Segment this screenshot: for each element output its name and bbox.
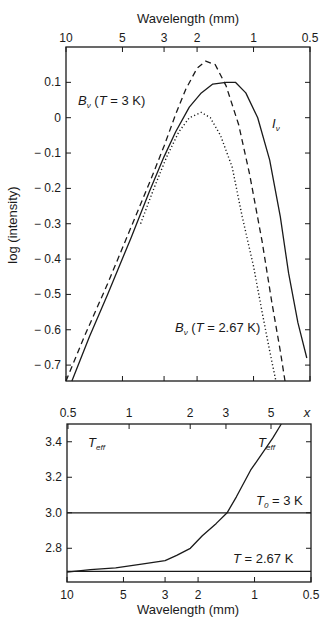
x2-tick-label: 1 <box>126 406 133 420</box>
x2-tick-label: 5 <box>268 406 275 420</box>
x-tick-label: 0.5 <box>303 588 320 602</box>
figure: Wavelength (mm) 1053210.5 0.10− 0.1− 0.2… <box>0 0 330 632</box>
upper-chart: Wavelength (mm) 1053210.5 0.10− 0.1− 0.2… <box>5 11 319 381</box>
x-tick-label: 5 <box>119 31 126 45</box>
y-tick-label: − 0.3 <box>34 217 61 231</box>
series-b-v-t-2-67-k <box>141 112 276 381</box>
y-tick-label: − 0.2 <box>34 181 61 195</box>
lower-bottom-x-ticks: 1053210.5 <box>60 577 319 602</box>
x-tick-label: 2 <box>194 31 201 45</box>
y-tick-label: 3.4 <box>45 435 62 449</box>
upper-x-axis-title: Wavelength (mm) <box>137 11 239 26</box>
lower-x2-axis-title: x <box>303 405 311 420</box>
y-tick-label: − 0.5 <box>34 287 61 301</box>
lower-chart: 0.51235 x 3.43.23.02.8 1053210.5 Wavelen… <box>45 405 319 617</box>
x-tick-label: 10 <box>60 588 74 602</box>
x2-tick-label: 0.5 <box>60 406 77 420</box>
x2-tick-label: 3 <box>223 406 230 420</box>
y-tick-label: − 0.1 <box>34 146 61 160</box>
annotation-t0-3k: T0 = 3 K <box>256 493 303 510</box>
annotation-bv-267k: Bν (T = 2.67 K) <box>175 320 260 337</box>
x-tick-label: 1 <box>251 588 258 602</box>
annotation-bv-3k: Bν (T = 3 K) <box>78 93 145 110</box>
upper-y-ticks: 0.10− 0.1− 0.2− 0.3− 0.4− 0.5− 0.6− 0.7 <box>34 75 310 372</box>
y-tick-label: − 0.6 <box>34 323 61 337</box>
y-tick-label: − 0.4 <box>34 252 61 266</box>
y-tick-label: 3.0 <box>45 506 62 520</box>
y-tick-label: 0.1 <box>44 75 61 89</box>
y-tick-label: 2.8 <box>45 541 62 555</box>
y-tick-label: 3.2 <box>45 470 62 484</box>
x-tick-label: 3 <box>162 588 169 602</box>
x-tick-label: 1 <box>250 31 257 45</box>
annotation-t-267k: T = 2.67 K <box>233 551 294 566</box>
annotation-iv: Iν <box>272 116 280 133</box>
x-tick-label: 3 <box>161 31 168 45</box>
x2-tick-label: 2 <box>187 406 194 420</box>
upper-y-axis-title: log (intensity) <box>5 186 20 263</box>
annotation-teff-left: Teff <box>88 435 106 452</box>
y-tick-label: 0 <box>54 111 61 125</box>
x-tick-label: 5 <box>120 588 127 602</box>
y-tick-label: − 0.7 <box>34 358 61 372</box>
x-tick-label: 10 <box>59 31 73 45</box>
x-tick-label: 2 <box>195 588 202 602</box>
lower-x-axis-title: Wavelength (mm) <box>137 602 239 617</box>
x-tick-label: 0.5 <box>302 31 319 45</box>
lower-top-x-ticks: 0.51235 <box>60 406 275 429</box>
